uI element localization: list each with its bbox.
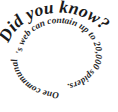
did-you-know-graphic: Did you know? 's web can contain up to 2… bbox=[0, 0, 118, 112]
spiral-text-artwork: Did you know? 's web can contain up to 2… bbox=[0, 0, 118, 112]
